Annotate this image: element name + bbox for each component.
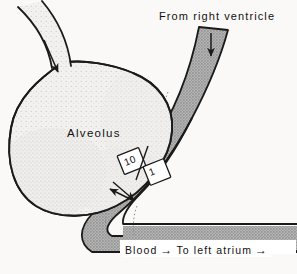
label-blood-flow-row: Blood → To left atrium → bbox=[122, 243, 271, 257]
label-alveolus: Alveolus bbox=[67, 128, 121, 140]
label-from-right-ventricle: From right ventricle bbox=[159, 11, 275, 22]
right-arrow-icon-end: → bbox=[255, 244, 268, 256]
label-to-left-atrium: To left atrium bbox=[176, 245, 252, 256]
alveolus-capillary-diagram: From right ventricle Alveolus Blood → To… bbox=[0, 0, 297, 274]
diagram-canvas bbox=[0, 0, 297, 274]
label-blood: Blood bbox=[125, 245, 157, 256]
right-arrow-icon: → bbox=[160, 244, 173, 256]
bronchiole-airway bbox=[18, 1, 71, 72]
